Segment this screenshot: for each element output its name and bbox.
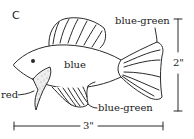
- panel-label: C: [12, 10, 20, 21]
- label-pectoral-red: red: [1, 90, 18, 100]
- fish-diagram: C blue red blue-green blue-green 2" 3": [0, 0, 194, 139]
- dorsal-fin: [49, 18, 106, 48]
- label-anal-blue-green: blue-green: [98, 103, 153, 113]
- label-height: 2": [173, 58, 184, 68]
- label-body-blue: blue: [64, 60, 86, 70]
- label-tail-blue-green: blue-green: [115, 16, 170, 26]
- label-width: 3": [83, 121, 94, 131]
- eye: [31, 59, 35, 63]
